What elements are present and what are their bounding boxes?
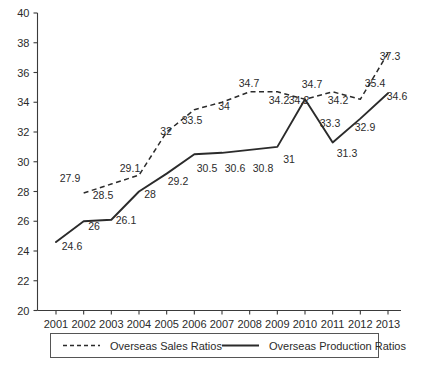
x-tick-label-2009: 2009 (265, 318, 289, 330)
x-tick-label-2005: 2005 (154, 318, 178, 330)
y-tick-label-38: 38 (17, 37, 29, 49)
y-tick-label-22: 22 (17, 275, 29, 287)
x-tick-label-2007: 2007 (210, 318, 234, 330)
data-label-sales-2: 29.1 (120, 162, 141, 174)
data-label-production-3: 28 (144, 188, 156, 200)
axes-group (38, 13, 402, 311)
data-label-sales-3: 32 (160, 125, 172, 137)
y-tick-label-24: 24 (17, 245, 29, 257)
data-label-sales-8: 34.7 (302, 78, 323, 90)
data-label-production-14: 34.6 (387, 90, 408, 102)
y-tick-label-28: 28 (17, 186, 29, 198)
x-axis-tick-labels: 2001200220032004200520062007200820092010… (44, 318, 400, 330)
x-tick-label-2003: 2003 (99, 318, 123, 330)
y-tick-label-36: 36 (17, 67, 29, 79)
data-label-production-0: 24.6 (62, 240, 83, 252)
data-label-production-8: 31 (283, 153, 295, 165)
x-tick-label-2008: 2008 (237, 318, 261, 330)
data-label-production-6: 30.6 (225, 162, 246, 174)
data-labels-overseas-sales-ratios: 27.928.529.13233.53434.734.234.734.237.3 (60, 50, 401, 201)
data-labels-overseas-production-ratios: 24.62626.12829.230.530.630.83134.233.331… (62, 77, 408, 252)
data-label-production-2: 26.1 (116, 214, 137, 226)
data-label-sales-0: 27.9 (60, 172, 81, 184)
data-label-sales-6: 34.7 (239, 77, 260, 89)
x-tick-label-2013: 2013 (376, 318, 400, 330)
chart-canvas: 2022242628303234363840 20012002200320042… (0, 0, 421, 373)
data-label-sales-1: 28.5 (93, 189, 114, 201)
data-label-production-13: 35.4 (365, 77, 386, 89)
data-label-production-9: 34.2 (289, 94, 310, 106)
y-tick-label-32: 32 (17, 126, 29, 138)
series-line-overseas-production-ratios (56, 93, 388, 242)
data-label-sales-4: 33.5 (182, 114, 203, 126)
legend-label-overseas-sales-ratios: Overseas Sales Ratios (110, 340, 222, 352)
x-tick-label-2004: 2004 (127, 318, 151, 330)
data-label-production-11: 31.3 (337, 147, 358, 159)
line-chart: 2022242628303234363840 20012002200320042… (0, 0, 421, 373)
y-tick-label-20: 20 (17, 305, 29, 317)
data-label-production-5: 30.5 (197, 162, 218, 174)
data-label-production-12: 32.9 (355, 121, 376, 133)
y-tick-label-30: 30 (17, 156, 29, 168)
x-tick-label-2010: 2010 (293, 318, 317, 330)
data-label-production-4: 29.2 (168, 175, 189, 187)
x-tick-label-2002: 2002 (71, 318, 95, 330)
y-tick-label-26: 26 (17, 215, 29, 227)
data-label-sales-7: 34.2 (269, 94, 290, 106)
y-tick-label-34: 34 (17, 96, 29, 108)
data-label-production-10: 33.3 (320, 117, 341, 129)
y-axis-ticks (34, 13, 38, 311)
x-tick-label-2012: 2012 (348, 318, 372, 330)
x-tick-label-2006: 2006 (182, 318, 206, 330)
x-axis-ticks (56, 311, 388, 315)
legend-label-overseas-production-ratios: Overseas Production Ratios (269, 340, 406, 352)
data-label-sales-5: 34 (218, 100, 230, 112)
x-tick-label-2001: 2001 (44, 318, 68, 330)
data-label-sales-10: 37.3 (380, 50, 401, 62)
legend: Overseas Sales Ratios Overseas Productio… (51, 334, 407, 358)
data-label-production-7: 30.8 (253, 162, 274, 174)
x-tick-label-2011: 2011 (321, 318, 345, 330)
data-label-production-1: 26 (88, 220, 100, 232)
y-tick-label-40: 40 (17, 7, 29, 19)
data-label-sales-9: 34.2 (328, 94, 349, 106)
y-axis-tick-labels: 2022242628303234363840 (17, 7, 29, 317)
